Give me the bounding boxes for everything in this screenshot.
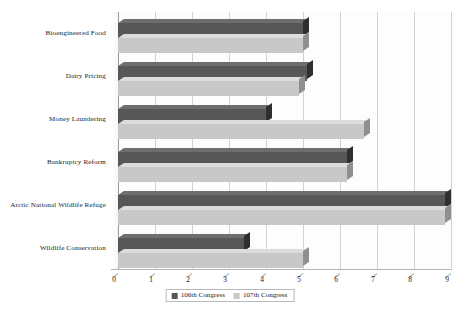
bar (118, 124, 364, 139)
x-axis-line (111, 269, 451, 270)
category-label: Money Laundering (0, 116, 106, 123)
bar (118, 38, 303, 53)
bar (118, 210, 445, 225)
bar-face (118, 167, 347, 182)
x-axis-tick-label: 6 (326, 276, 346, 283)
bar (118, 167, 347, 182)
bar-face (118, 253, 303, 268)
x-axis-tick-label: 1 (141, 276, 161, 283)
gridline (377, 12, 378, 270)
legend-label-107th: 107th Congress (243, 292, 287, 299)
x-axis-tick-label: 4 (252, 276, 272, 283)
legend-item-107th: 107th Congress (234, 292, 287, 299)
legend-label-106th: 106th Congress (181, 292, 225, 299)
legend-swatch-107th (234, 293, 240, 299)
chart-legend: 106th Congress 107th Congress (166, 289, 295, 302)
bar-face (118, 81, 299, 96)
legend-swatch-106th (172, 293, 178, 299)
x-axis-tick-label: 5 (289, 276, 309, 283)
bar-chart: Bioengineered Food Dairy Pricing Money L… (0, 0, 460, 315)
bar (118, 81, 299, 96)
plot-area (118, 12, 451, 270)
gridline (414, 12, 415, 270)
category-label: Wildlife Conservation (0, 245, 106, 252)
x-axis-tick-label: 3 (215, 276, 235, 283)
bar-face (118, 38, 303, 53)
bar-face (118, 210, 445, 225)
category-label: Arctic National Wildlife Refuge (0, 202, 106, 209)
gridline (451, 12, 452, 270)
x-axis-tick-label: 9 (437, 276, 457, 283)
category-label: Dairy Pricing (0, 73, 106, 80)
bar-face (118, 124, 364, 139)
x-axis-tick-label: 7 (363, 276, 383, 283)
x-axis-tick-label: 2 (178, 276, 198, 283)
category-label: Bioengineered Food (0, 30, 106, 37)
bar (118, 253, 303, 268)
category-label: Bankruptcy Reform (0, 159, 106, 166)
x-axis-tick-label: 8 (400, 276, 420, 283)
legend-item-106th: 106th Congress (172, 292, 225, 299)
category-label-column: Bioengineered Food Dairy Pricing Money L… (0, 12, 112, 270)
bar-end-cap (307, 59, 313, 78)
x-axis-tick-label: 0 (104, 276, 124, 283)
gridline (340, 12, 341, 270)
